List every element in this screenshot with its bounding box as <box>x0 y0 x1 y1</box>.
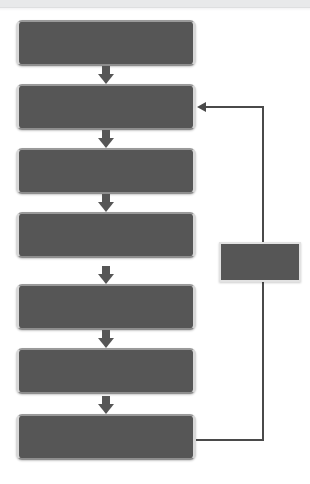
process-box-step-5-label <box>19 286 193 328</box>
top-window-band <box>0 0 310 8</box>
process-box-step-2[interactable] <box>16 84 196 130</box>
flow-arrow-step-1-to-step-2-icon <box>98 66 114 84</box>
feedback-arrowhead-icon <box>197 102 206 112</box>
process-box-step-4[interactable] <box>16 212 196 258</box>
arrow-head <box>98 138 114 148</box>
process-box-step-1[interactable] <box>16 20 196 66</box>
feedback-segment-bottom-horizontal <box>196 439 264 441</box>
arrow-head <box>98 338 114 348</box>
flow-arrow-step-6-to-step-7-icon <box>98 396 114 414</box>
process-box-step-4-label <box>19 214 193 256</box>
process-box-step-5[interactable] <box>16 284 196 330</box>
process-box-step-6-label <box>19 350 193 392</box>
arrow-head <box>98 74 114 84</box>
arrow-head <box>98 274 114 284</box>
top-band-shadow <box>0 8 310 11</box>
process-box-step-3-label <box>19 150 193 192</box>
process-box-step-1-label <box>19 22 193 64</box>
side-node-box[interactable] <box>219 242 301 282</box>
flow-arrow-step-2-to-step-3-icon <box>98 130 114 148</box>
flow-arrow-step-5-to-step-6-icon <box>98 330 114 348</box>
process-box-step-3[interactable] <box>16 148 196 194</box>
process-box-step-7[interactable] <box>16 414 196 460</box>
process-box-step-7-label <box>19 416 193 458</box>
process-box-step-6[interactable] <box>16 348 196 394</box>
feedback-segment-top-horizontal <box>205 106 264 108</box>
flow-arrow-step-4-to-step-5-icon <box>98 266 114 284</box>
process-box-step-2-label <box>19 86 193 128</box>
flowchart-canvas <box>0 0 310 484</box>
flow-arrow-step-3-to-step-4-icon <box>98 194 114 212</box>
arrow-head <box>98 404 114 414</box>
arrow-head <box>98 202 114 212</box>
